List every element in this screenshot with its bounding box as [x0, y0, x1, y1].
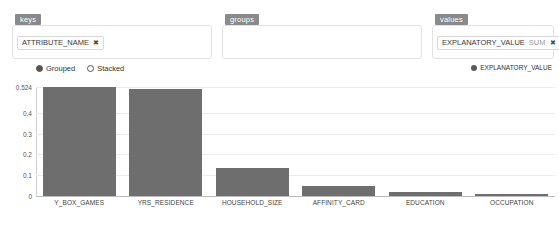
field-groups-dropzone[interactable]	[222, 25, 422, 59]
bar-cell	[382, 87, 469, 196]
x-axis-line	[36, 196, 555, 197]
bar-cell	[123, 87, 210, 196]
field-keys-dropzone[interactable]: ATTRIBUTE_NAME ✖	[12, 25, 212, 59]
x-axis-tick-label: Y_BOX_GAMES	[36, 199, 123, 206]
field-values-label: values	[435, 14, 468, 25]
chip-aggregation-label[interactable]: SUM	[529, 38, 546, 47]
y-axis-tick-label: 0.524	[16, 84, 32, 91]
y-axis-tick-label: 0.4	[23, 109, 32, 116]
plot-area: 0.5240.40.30.20.10 Y_BOX_GAMESYRS_RESIDE…	[0, 58, 559, 232]
x-axis-tick-label: OCCUPATION	[469, 199, 556, 206]
y-axis-tick-label: 0.2	[23, 151, 32, 158]
field-keys-label: keys	[15, 14, 41, 25]
bar-cell	[209, 87, 296, 196]
bar-series	[36, 87, 555, 196]
field-groups: groups	[222, 8, 422, 59]
bar-cell	[469, 87, 556, 196]
chip-explanatory-value[interactable]: EXPLANATORY_VALUE SUM ✖	[437, 36, 559, 50]
y-axis-tick-label: 0	[28, 193, 32, 200]
chip-remove-icon[interactable]: ✖	[93, 39, 99, 46]
field-values: values EXPLANATORY_VALUE SUM ✖	[432, 8, 554, 59]
chip-remove-icon[interactable]: ✖	[550, 39, 556, 46]
chip-attribute-name[interactable]: ATTRIBUTE_NAME ✖	[17, 36, 104, 50]
field-drop-zones: keys ATTRIBUTE_NAME ✖ groups values EXPL…	[0, 0, 559, 58]
bar[interactable]	[389, 192, 462, 196]
field-values-dropzone[interactable]: EXPLANATORY_VALUE SUM ✖	[432, 25, 554, 59]
bar[interactable]	[129, 89, 202, 196]
x-axis-tick-label: EDUCATION	[382, 199, 469, 206]
y-axis-tick-label: 0.3	[23, 130, 32, 137]
visualization-panel: keys ATTRIBUTE_NAME ✖ groups values EXPL…	[0, 0, 559, 232]
x-axis-tick-label: AFFINITY_CARD	[296, 199, 383, 206]
bar[interactable]	[216, 168, 289, 196]
x-axis-tick-label: HOUSEHOLD_SIZE	[209, 199, 296, 206]
bar[interactable]	[475, 194, 548, 196]
bar[interactable]	[43, 87, 116, 196]
x-axis-tick-label: YRS_RESIDENCE	[123, 199, 210, 206]
x-axis-labels: Y_BOX_GAMESYRS_RESIDENCEHOUSEHOLD_SIZEAF…	[36, 199, 555, 206]
bar[interactable]	[302, 186, 375, 196]
chip-attribute-name-text: ATTRIBUTE_NAME	[22, 38, 89, 47]
field-keys: keys ATTRIBUTE_NAME ✖	[12, 8, 212, 59]
bar-cell	[36, 87, 123, 196]
y-axis-tick-label: 0.1	[23, 172, 32, 179]
field-groups-label: groups	[225, 14, 259, 25]
bar-chart: Grouped Stacked EXPLANATORY_VALUE 0.5240…	[0, 58, 559, 232]
chip-explanatory-value-text: EXPLANATORY_VALUE	[442, 38, 525, 47]
bar-cell	[296, 87, 383, 196]
y-axis: 0.5240.40.30.20.10	[0, 58, 32, 232]
